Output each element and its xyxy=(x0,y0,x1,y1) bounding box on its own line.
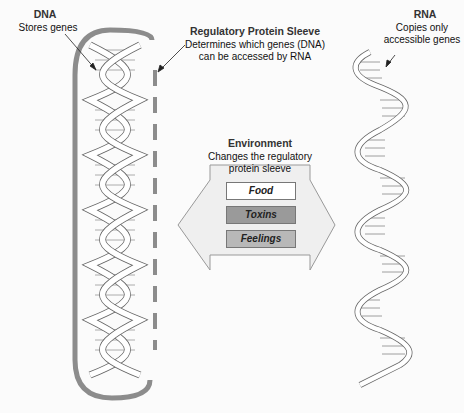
dna-caption: Stores genes xyxy=(8,22,88,34)
environment-caption-2: protein sleeve xyxy=(195,163,325,175)
rna-caption-1: Copies only xyxy=(380,22,464,34)
rna-strand xyxy=(356,52,410,385)
environment-title: Environment xyxy=(210,137,310,149)
sleeve-title: Regulatory Protein Sleeve xyxy=(175,25,335,37)
environment-caption-1: Changes the regulatory xyxy=(195,151,325,163)
rna-caption-2: accessible genes xyxy=(380,34,464,46)
dna-helix xyxy=(90,45,140,375)
dna-title: DNA xyxy=(15,8,75,20)
factor-toxins: Toxins xyxy=(226,206,296,224)
rna-title: RNA xyxy=(400,8,450,20)
sleeve-caption-2: can be accessed by RNA xyxy=(170,51,340,63)
factor-feelings: Feelings xyxy=(226,230,296,248)
sleeve-caption-1: Determines which genes (DNA) xyxy=(170,39,340,51)
factor-food: Food xyxy=(226,182,296,200)
